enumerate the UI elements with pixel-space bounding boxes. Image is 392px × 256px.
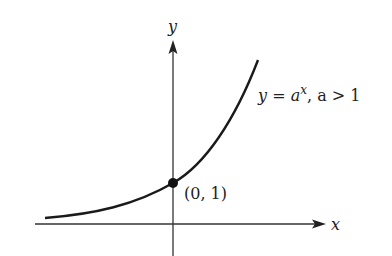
diagram-canvas: y x (0, 1) y = ax, a > 1 [0, 0, 392, 256]
y-axis-label: y [167, 17, 178, 36]
intercept-point [168, 178, 178, 188]
exponential-graph: y x (0, 1) y = ax, a > 1 [0, 0, 392, 256]
point-label: (0, 1) [184, 184, 227, 203]
curve-equation-label: y = ax, a > 1 [257, 83, 360, 105]
x-axis-label: x [331, 215, 340, 234]
